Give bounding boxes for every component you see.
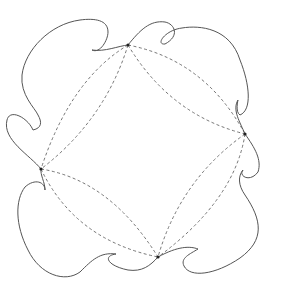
dashed-arc bbox=[158, 134, 245, 257]
tiling-diagram bbox=[0, 0, 290, 302]
vertex-points bbox=[39, 43, 246, 258]
vertex-top bbox=[126, 43, 129, 46]
dashed-arc bbox=[128, 45, 245, 134]
vertex-bottom bbox=[156, 255, 159, 258]
dashed-arc bbox=[158, 134, 245, 257]
dashed-arc bbox=[41, 169, 158, 257]
dashed-arc bbox=[41, 45, 128, 169]
vertex-right bbox=[243, 132, 246, 135]
outline-segment bbox=[128, 22, 248, 134]
dashed-arc bbox=[41, 169, 158, 257]
vertex-left bbox=[39, 167, 42, 170]
dashed-arc bbox=[41, 45, 128, 169]
outline-segment bbox=[158, 134, 259, 273]
dashed-arcs bbox=[41, 45, 245, 257]
outline-segment bbox=[6, 19, 128, 169]
outer-outline bbox=[6, 19, 259, 277]
dashed-arc bbox=[128, 45, 245, 134]
